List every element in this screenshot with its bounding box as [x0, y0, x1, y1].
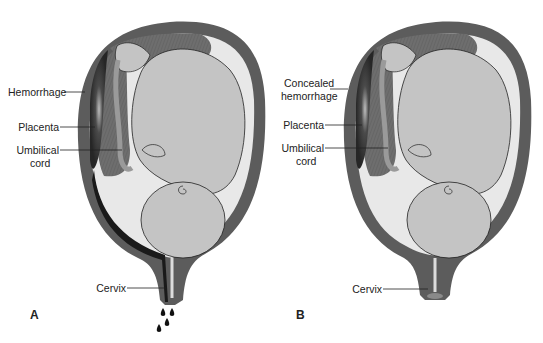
label-cervix: Cervix [80, 282, 126, 294]
label-cord: cord [30, 157, 50, 169]
panel-letter-a: A [30, 308, 39, 322]
label-hemorrhage-b: hemorrhage [281, 90, 338, 102]
label-placenta: Placenta [8, 121, 59, 133]
panel-letter-b: B [296, 308, 305, 322]
label-umbilical: Umbilical [8, 144, 59, 156]
label-hemorrhage: Hemorrhage [8, 86, 64, 98]
label-cord-b: cord [296, 155, 316, 167]
panel-b-uterus [344, 22, 531, 300]
label-concealed: Concealed [284, 77, 334, 89]
blood-drops [157, 308, 175, 332]
label-umbilical-b: Umbilical [270, 142, 324, 154]
label-placenta-b: Placenta [270, 119, 324, 131]
label-cervix-b: Cervix [340, 283, 382, 295]
